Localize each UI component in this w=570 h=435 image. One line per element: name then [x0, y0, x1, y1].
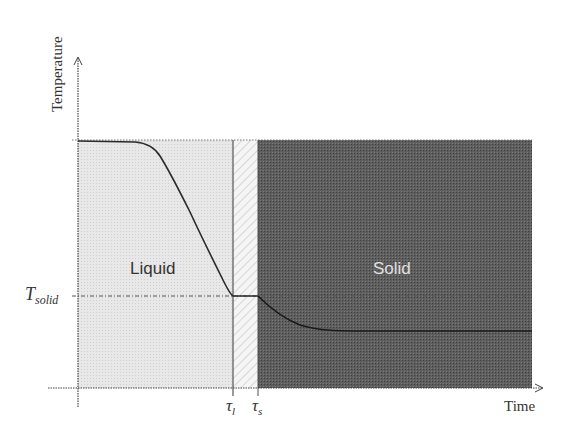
tau-l-label: τl — [226, 396, 235, 417]
mushy-region — [233, 140, 258, 388]
liquid-label: Liquid — [130, 259, 175, 278]
tau-s-label: τs — [252, 396, 262, 417]
t-solid-subscript: solid — [35, 293, 59, 307]
solid-label: Solid — [373, 259, 411, 278]
y-axis-label: Temperature — [49, 36, 65, 112]
tau-s-subscript: s — [258, 405, 262, 417]
t-solid-label: Tsolid — [25, 284, 59, 307]
tau-l-subscript: l — [232, 405, 235, 417]
cooling-curve-diagram: Temperature Time Liquid Solid Tsolid τl … — [0, 0, 570, 435]
x-axis-label: Time — [504, 398, 535, 414]
